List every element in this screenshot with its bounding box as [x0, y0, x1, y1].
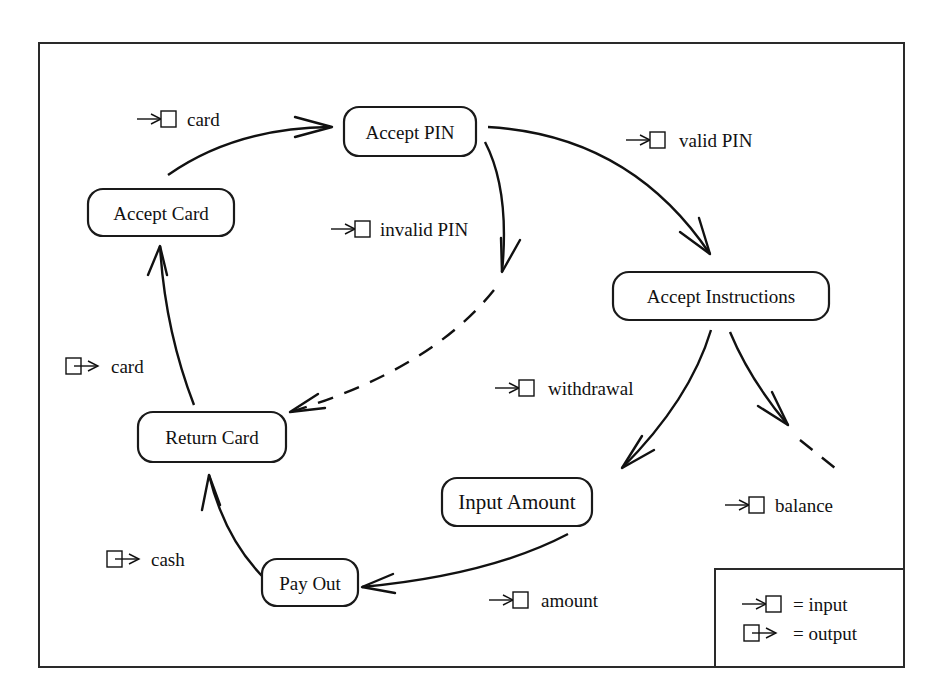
label-amount-input: amount — [489, 590, 599, 611]
state-accept-instructions[interactable]: Accept Instructions — [613, 272, 829, 320]
output-icon — [744, 625, 776, 641]
svg-text:withdrawal: withdrawal — [548, 378, 633, 399]
atm-state-diagram: Accept Card Accept PIN Accept Instructio… — [0, 0, 943, 700]
label-valid-pin-input: valid PIN — [626, 130, 753, 151]
svg-text:card: card — [111, 356, 144, 377]
label-card-output: card — [66, 356, 144, 377]
input-icon — [137, 111, 176, 127]
label-invalid-pin-input: invalid PIN — [331, 219, 468, 240]
legend-input-entry: = input — [742, 594, 848, 615]
svg-text:= output: = output — [793, 623, 858, 644]
svg-text:amount: amount — [541, 590, 599, 611]
input-icon — [495, 380, 534, 396]
edge-accept-pin-to-return-card — [290, 142, 520, 412]
label-withdrawal-input: withdrawal — [495, 378, 633, 399]
label-card-input: card — [137, 109, 220, 130]
state-label: Accept Card — [113, 203, 209, 224]
svg-text:card: card — [187, 109, 220, 130]
input-icon — [331, 221, 370, 237]
svg-text:= input: = input — [793, 594, 848, 615]
edge-accept-instructions-to-balance — [730, 332, 835, 468]
svg-text:balance: balance — [775, 495, 833, 516]
label-cash-output: cash — [107, 549, 185, 570]
input-icon — [725, 497, 764, 513]
state-label: Return Card — [165, 427, 259, 448]
edge-accept-instructions-to-input-amount — [622, 330, 711, 468]
state-return-card[interactable]: Return Card — [138, 412, 286, 462]
svg-text:valid PIN: valid PIN — [679, 130, 753, 151]
edge-pay-out-to-return-card — [202, 475, 266, 580]
edge-input-amount-to-pay-out — [362, 534, 568, 593]
state-label: Accept Instructions — [647, 286, 795, 307]
input-icon — [626, 132, 665, 148]
state-accept-pin[interactable]: Accept PIN — [344, 107, 476, 156]
label-balance-input: balance — [725, 495, 833, 516]
input-icon — [489, 592, 528, 608]
state-label: Input Amount — [458, 490, 575, 514]
legend-output-entry: = output — [744, 623, 858, 644]
legend-frame — [715, 569, 904, 667]
state-pay-out[interactable]: Pay Out — [262, 559, 358, 606]
edge-return-card-to-accept-card — [148, 246, 194, 405]
legend: = input = output — [742, 594, 858, 644]
svg-text:cash: cash — [151, 549, 185, 570]
edge-accept-pin-to-accept-instructions — [488, 127, 710, 254]
output-icon — [66, 358, 98, 374]
state-accept-card[interactable]: Accept Card — [88, 189, 234, 236]
state-label: Accept PIN — [365, 122, 454, 143]
state-label: Pay Out — [279, 573, 341, 594]
output-icon — [107, 551, 139, 567]
svg-text:invalid PIN: invalid PIN — [380, 219, 468, 240]
state-input-amount[interactable]: Input Amount — [442, 478, 592, 526]
input-icon — [742, 596, 781, 612]
